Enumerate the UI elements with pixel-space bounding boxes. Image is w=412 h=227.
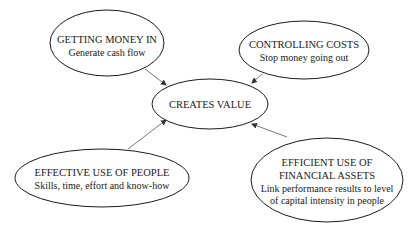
node-title: GETTING MONEY IN: [57, 34, 157, 45]
node-subtitle-line-1: Link performance results to level: [261, 183, 394, 194]
edge-efficient-use-of-financial-assets-to-center: [252, 124, 287, 137]
center-title: CREATES VALUE: [169, 99, 251, 110]
node-subtitle: Skills, time, effort and know-how: [35, 180, 171, 191]
edge-effective-use-of-people-to-center: [128, 120, 166, 149]
node-controlling-costs: CONTROLLING COSTS Stop money going out: [239, 21, 369, 79]
edge-controlling-costs-to-center: [252, 74, 262, 83]
node-ellipse: [239, 21, 369, 79]
node-title-line-2: FINANCIAL ASSETS: [279, 170, 375, 181]
node-ellipse: [15, 149, 189, 207]
node-subtitle: Stop money going out: [260, 52, 349, 63]
node-title: CONTROLLING COSTS: [249, 39, 359, 50]
node-title-line-1: EFFICIENT USE OF: [282, 157, 373, 168]
value-creation-diagram: GETTING MONEY IN Generate cash flow CONT…: [0, 0, 412, 227]
node-subtitle: Generate cash flow: [68, 47, 146, 58]
node-getting-money-in: GETTING MONEY IN Generate cash flow: [50, 10, 164, 76]
node-efficient-use-of-financial-assets: EFFICIENT USE OF FINANCIAL ASSETS Link p…: [251, 138, 403, 222]
node-subtitle-line-2: of capital intensity in people: [270, 195, 384, 206]
node-creates-value: CREATES VALUE: [152, 79, 268, 129]
node-title: EFFECTIVE USE OF PEOPLE: [34, 167, 169, 178]
edge-getting-money-in-to-center: [145, 69, 166, 85]
node-effective-use-of-people: EFFECTIVE USE OF PEOPLE Skills, time, ef…: [15, 149, 189, 207]
